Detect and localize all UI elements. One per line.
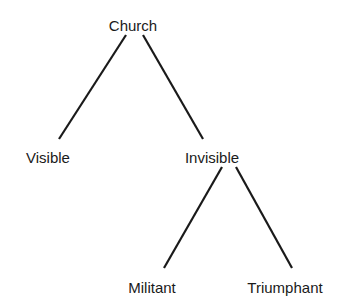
node-triumphant: Triumphant (247, 280, 322, 295)
edge-invisible-militant (164, 167, 222, 268)
node-church: Church (109, 18, 157, 33)
edge-church-visible (59, 35, 126, 139)
edge-invisible-triumphant (236, 167, 292, 268)
edge-church-invisible (143, 35, 203, 139)
node-militant: Militant (128, 280, 176, 295)
church-hierarchy-diagram: Church Visible Invisible Militant Triump… (0, 0, 344, 305)
node-invisible: Invisible (185, 150, 239, 165)
node-visible: Visible (26, 150, 70, 165)
